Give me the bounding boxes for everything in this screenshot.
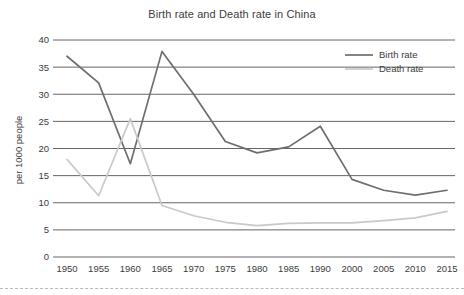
x-axis-tick-label: 1965 (151, 263, 172, 274)
y-axis-tick-label: 0 (44, 251, 49, 262)
legend-label[interactable]: Death rate (379, 63, 423, 74)
line-chart-plot: 0510152025303540 19501955196019651970197… (0, 0, 464, 295)
x-axis-tick-label: 1970 (183, 263, 204, 274)
x-axis-tick-label: 1975 (215, 263, 236, 274)
y-axis-tick-label: 20 (38, 143, 49, 154)
x-axis-tick-labels: 1950195519601965197019751980198519902000… (56, 263, 457, 274)
x-axis-tick-label: 1955 (88, 263, 109, 274)
x-axis-tick-label: 1990 (310, 263, 331, 274)
x-axis-tick-label: 1950 (56, 263, 77, 274)
y-axis-tick-labels: 0510152025303540 (38, 34, 49, 262)
y-axis-tick-label: 15 (38, 170, 49, 181)
y-axis-tick-label: 40 (38, 34, 49, 45)
x-axis-tick-label: 2010 (405, 263, 426, 274)
x-axis-tick-label: 2000 (341, 263, 362, 274)
bottom-dashed-divider (0, 288, 464, 289)
chart-container: Birth rate and Death rate in China 05101… (0, 0, 464, 295)
x-axis-tick-label: 1985 (278, 263, 299, 274)
y-axis-tick-label: 10 (38, 197, 49, 208)
x-axis-tick-label: 1960 (120, 263, 141, 274)
legend-label[interactable]: Birth rate (379, 49, 418, 60)
y-axis-tick-label: 35 (38, 62, 49, 73)
x-axis-tick-label: 1980 (246, 263, 267, 274)
y-axis-tick-label: 25 (38, 116, 49, 127)
y-axis-title: per 1000 people (13, 116, 24, 185)
x-axis-tick-label: 2015 (436, 263, 457, 274)
y-axis-tick-label: 30 (38, 89, 49, 100)
x-axis-tick-label: 2005 (373, 263, 394, 274)
series-line-death-rate (67, 119, 447, 226)
y-axis-tick-label: 5 (44, 224, 49, 235)
chart-legend: Birth rateDeath rate (345, 49, 423, 74)
data-series-group (67, 51, 447, 225)
